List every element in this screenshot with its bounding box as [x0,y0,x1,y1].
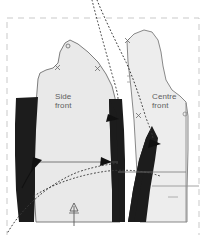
pattern-diagram-root: Side front Centre front [0,0,206,235]
sewing-pattern-svg [0,0,206,235]
